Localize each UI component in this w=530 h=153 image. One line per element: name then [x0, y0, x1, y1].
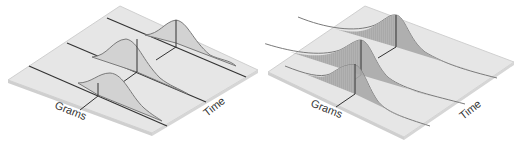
right-panel-diagram: Grams Time: [265, 0, 530, 153]
left-panel-diagram: Grams Time: [0, 0, 265, 153]
